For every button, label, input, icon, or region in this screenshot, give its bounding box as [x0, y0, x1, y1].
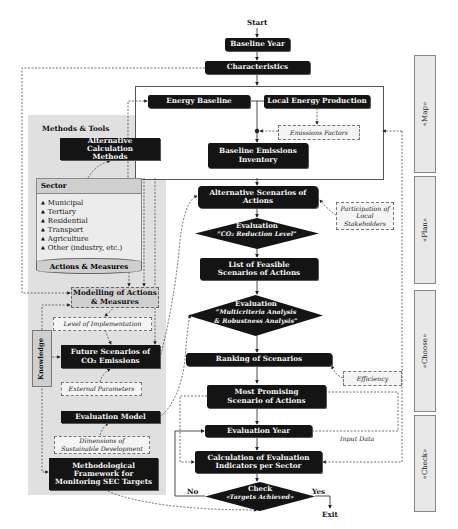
sector-item: Other (industry, etc.): [41, 244, 122, 253]
level-implementation-box: Level of Implementation: [53, 317, 152, 331]
knowledge-tab: Knowledge: [32, 330, 52, 387]
alternative-scenarios-box: Alternative Scenarios of Actions: [198, 186, 318, 208]
efficiency-box: Efficiency: [343, 371, 402, 386]
calculation-box: Calculation of Evaluation Indicators per…: [195, 451, 322, 473]
modelling-box: Modelling of Actions & Measures: [71, 287, 159, 308]
actions-measures-box: Actions & Measures: [36, 258, 142, 274]
evaluation-model-box: Evaluation Model: [61, 411, 160, 423]
characteristics-box: Characteristics: [205, 61, 310, 74]
input-data-label: Input Data: [340, 435, 374, 442]
start-label: Start: [247, 18, 267, 27]
baseline-year-box: Baseline Year: [225, 38, 290, 51]
sector-item: Municipal: [41, 199, 122, 208]
methodological-framework-box: Methodological Framework for Monitoring …: [49, 458, 158, 490]
local-energy-production-box: Local Energy Production: [264, 95, 370, 108]
evaluation-co2-text: Evaluation “CO₂ Reduction Level”: [215, 222, 299, 239]
sector-list-box: Sector Municipal Tertiary Residential Tr…: [36, 178, 142, 266]
exit-label: Exit: [322, 510, 338, 519]
list-feasible-box: List of Feasible Scenarios of Actions: [200, 258, 318, 280]
energy-baseline-box: Energy Baseline: [148, 95, 250, 108]
sector-item: Residential: [41, 217, 122, 226]
evaluation-mca-text: Evaluation “Multicriteria Analysis & Rob…: [208, 300, 304, 325]
sector-item: Transport: [41, 226, 122, 235]
sector-item: Agriculture: [41, 235, 122, 244]
ranking-box: Ranking of Scenarios: [186, 353, 332, 366]
participation-box: Participation of Local Stakeholders: [336, 202, 394, 230]
alt-calc-methods-box: Alternative Calculation Methods: [60, 138, 160, 160]
baseline-emissions-inventory-box: Baseline Emissions Inventory: [208, 143, 308, 168]
yes-label: Yes: [312, 487, 325, 496]
evaluation-year-box: Evaluation Year: [205, 425, 312, 437]
dimensions-box: Dimensions of Sustainable Development: [54, 436, 150, 454]
no-label: No: [187, 487, 198, 496]
sector-title: Sector: [37, 179, 141, 194]
most-promising-box: Most Promising Scenario of Actions: [207, 385, 326, 408]
sector-items: Municipal Tertiary Residential Transport…: [41, 199, 122, 253]
sector-item: Tertiary: [41, 208, 122, 217]
future-scenarios-box: Future Scenarios of CO₂ Emissions: [61, 345, 160, 368]
check-text: Check «Targets Achieved»: [220, 485, 300, 502]
external-parameters-box: External Parameters: [61, 382, 142, 396]
emissions-factors-box: Emissions Factors: [278, 125, 360, 140]
